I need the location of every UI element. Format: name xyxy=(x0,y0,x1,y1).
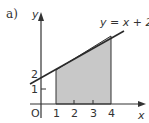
part-label: a) xyxy=(6,7,18,21)
shaded-area xyxy=(56,36,111,104)
equation-label: y = x + 2 xyxy=(99,16,149,29)
y-tick-label-1: 1 xyxy=(31,83,38,96)
x-tick-label-4: 4 xyxy=(108,107,115,120)
x-tick-label-1: 1 xyxy=(53,107,60,120)
x-axis-arrow-icon xyxy=(138,101,146,107)
y-axis-label: y xyxy=(31,8,39,21)
x-axis-label: x xyxy=(137,109,145,122)
x-tick-label-3: 3 xyxy=(90,107,97,120)
origin-label: O xyxy=(31,107,40,120)
y-axis-arrow-icon xyxy=(38,12,44,21)
x-tick-label-2: 2 xyxy=(71,107,78,120)
area-under-line-graph: a) y x y = x + 2 O 1 2 3 4 1 2 xyxy=(0,0,149,123)
y-tick-label-2: 2 xyxy=(31,68,38,81)
